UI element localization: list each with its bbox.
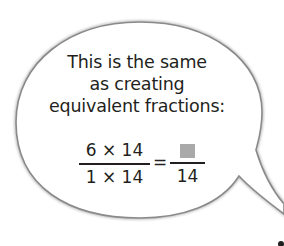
- answer-box-placeholder: [180, 144, 195, 158]
- bubble-text-line-1: This is the same: [2, 51, 272, 73]
- right-denominator: 14: [170, 166, 205, 186]
- bubble-text-line-2: as creating: [2, 73, 272, 95]
- speech-bubble-outline: [0, 0, 284, 246]
- fraction-bar: [79, 163, 150, 165]
- left-denominator: 1 × 14: [79, 167, 150, 187]
- fraction-bar: [170, 162, 205, 164]
- bubble-text-line-3: equivalent fractions:: [2, 95, 272, 117]
- equals-sign: =: [153, 152, 167, 172]
- left-numerator: 6 × 14: [79, 140, 150, 162]
- left-fraction: 6 × 14 1 × 14: [79, 140, 150, 187]
- right-fraction: 14: [170, 140, 205, 186]
